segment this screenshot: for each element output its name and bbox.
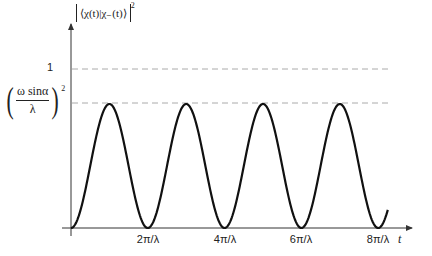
chart-canvas [0,0,432,256]
peak-denominator: λ [30,101,36,117]
x-tick-6pi: 6π/λ [290,233,312,245]
x-tick-8pi: 8π/λ [367,233,389,245]
peak-fraction: ω sinα λ [16,84,49,117]
y-axis-title: ⟨χ(t)|χ₋(t)⟩2 [76,4,135,22]
x-axis-title: t [398,232,401,247]
y-axis-title-power: 2 [131,1,135,10]
right-paren: ) [52,82,59,118]
y-label-peak: ( ω sinα λ ) 2 [4,82,65,118]
left-paren: ( [6,82,13,118]
y-label-one: 1 [47,61,53,73]
x-tick-4pi: 4π/λ [214,233,236,245]
peak-power: 2 [61,84,65,93]
y-axis-title-abs: ⟨χ(t)|χ₋(t)⟩ [76,4,131,22]
data-curve [71,104,388,228]
peak-numerator: ω sinα [16,84,49,101]
x-tick-2pi: 2π/λ [137,233,159,245]
